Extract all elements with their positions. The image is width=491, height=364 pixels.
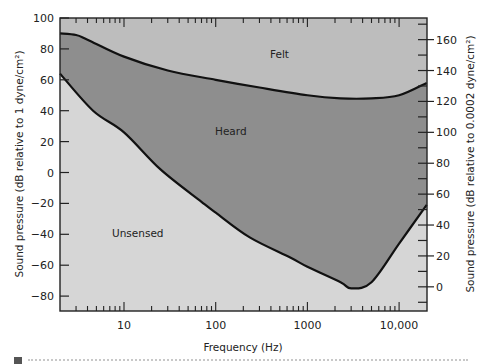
y-tick-label-left: −60	[31, 259, 54, 272]
chart-regions	[60, 18, 427, 311]
y-tick-label-right: 140	[436, 65, 457, 78]
y-tick-label-left: 40	[40, 105, 54, 118]
y-axis-title-right: Sound pressure (dB relative to 0.0002 dy…	[464, 35, 476, 292]
region-label-unsensed: Unsensed	[112, 227, 164, 239]
caption-text-cropped	[28, 359, 468, 362]
y-tick-label-right: 60	[436, 188, 450, 201]
y-tick-label-right: 20	[436, 250, 450, 263]
y-tick-label-right: 40	[436, 219, 450, 232]
y-tick-label-left: 80	[40, 43, 54, 56]
y-tick-label-right: 80	[436, 157, 450, 170]
y-tick-label-right: 100	[436, 126, 457, 139]
y-axis-title-left: Sound pressure (dB relative to 1 dyne/cm…	[13, 50, 25, 277]
x-tick-label: 100	[205, 319, 226, 332]
y-tick-label-left: −80	[31, 290, 54, 303]
y-tick-label-left: 100	[33, 12, 54, 25]
x-tick-label: 10	[117, 319, 131, 332]
x-tick-label: 10,000	[380, 319, 419, 332]
y-tick-label-left: 60	[40, 74, 54, 87]
y-tick-label-left: 20	[40, 136, 54, 149]
y-tick-label-left: −20	[31, 197, 54, 210]
y-tick-label-left: −40	[31, 228, 54, 241]
region-label-heard: Heard	[215, 125, 247, 137]
region-label-felt: Felt	[270, 48, 289, 60]
x-axis-title: Frequency (Hz)	[203, 341, 282, 353]
y-tick-label-right: 120	[436, 95, 457, 108]
caption-marker-icon	[14, 357, 22, 364]
y-tick-label-left: 0	[47, 167, 54, 180]
y-tick-label-right: 0	[436, 281, 443, 294]
x-tick-label: 1000	[293, 319, 321, 332]
y-tick-label-right: 160	[436, 34, 457, 47]
figure-caption-cropped	[14, 356, 484, 364]
